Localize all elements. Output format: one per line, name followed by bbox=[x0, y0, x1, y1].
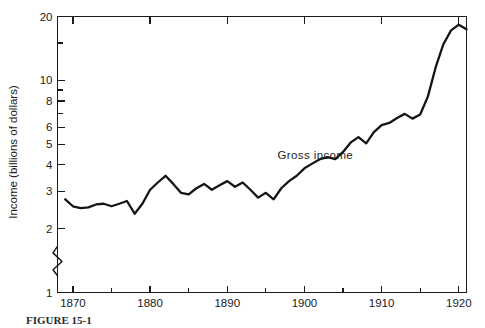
figure-container: 12345681020 187018801890190019101920 Inc… bbox=[0, 0, 485, 328]
y-axis-title-group: Income (billions of dollars) bbox=[7, 85, 19, 219]
x-tick-label-1920: 1920 bbox=[446, 297, 472, 309]
y-tick-label-2: 2 bbox=[46, 223, 52, 235]
y-tick-label-20: 20 bbox=[40, 11, 53, 23]
x-axis-major-ticks bbox=[73, 17, 459, 293]
x-tick-label-1870: 1870 bbox=[60, 297, 86, 309]
y-tick-label-8: 8 bbox=[46, 95, 52, 107]
gross-income-line bbox=[65, 25, 466, 214]
income-log-line-chart: 12345681020 187018801890190019101920 Inc… bbox=[0, 0, 485, 328]
y-tick-label-4: 4 bbox=[46, 159, 53, 171]
y-tick-label-5: 5 bbox=[46, 138, 52, 150]
y-tick-label-6: 6 bbox=[46, 121, 52, 133]
axis-frame bbox=[58, 17, 467, 293]
y-tick-label-10: 10 bbox=[40, 74, 53, 86]
figure-caption: FIGURE 15-1 bbox=[26, 314, 92, 326]
y-tick-label-1: 1 bbox=[46, 287, 52, 299]
x-axis-tick-labels: 187018801890190019101920 bbox=[60, 297, 471, 309]
gross-income-annotation: Gross income bbox=[277, 149, 353, 161]
x-tick-label-1910: 1910 bbox=[369, 297, 395, 309]
plot-frame bbox=[58, 17, 467, 293]
x-tick-label-1880: 1880 bbox=[137, 297, 163, 309]
x-tick-label-1900: 1900 bbox=[292, 297, 318, 309]
y-axis-tick-labels: 12345681020 bbox=[40, 11, 53, 299]
y-axis-title: Income (billions of dollars) bbox=[7, 85, 19, 219]
y-axis-major-ticks bbox=[58, 17, 65, 293]
y-tick-label-3: 3 bbox=[46, 185, 52, 197]
x-tick-label-1890: 1890 bbox=[214, 297, 240, 309]
